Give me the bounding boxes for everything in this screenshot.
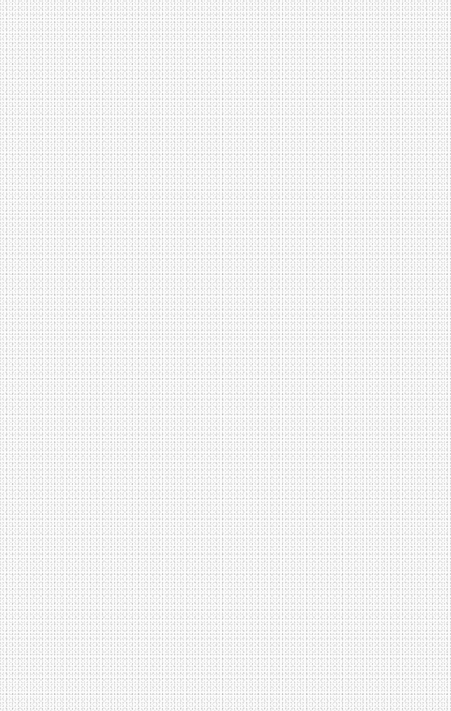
blank-noise-canvas <box>0 0 451 711</box>
